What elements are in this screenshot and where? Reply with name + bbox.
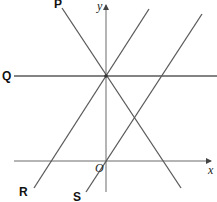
label-p: P xyxy=(54,0,62,11)
intersection-point xyxy=(104,74,108,78)
x-axis-label: x xyxy=(207,163,214,177)
label-s: S xyxy=(73,190,81,202)
label-r: R xyxy=(19,185,28,199)
label-q: Q xyxy=(2,69,11,83)
y-axis-label: y xyxy=(96,0,103,13)
diagram-canvas: P Q R S y x O xyxy=(0,0,217,202)
origin-label: O xyxy=(95,161,104,175)
